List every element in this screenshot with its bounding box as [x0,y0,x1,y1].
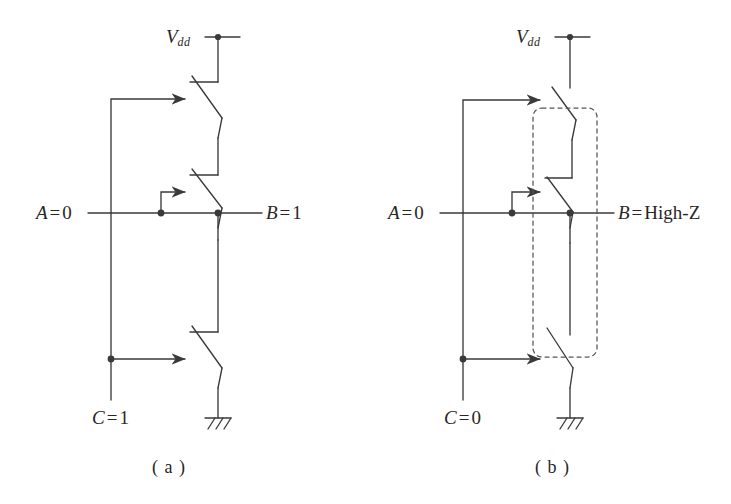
node-dot-b [215,210,222,217]
panel-a-output-b-label: B=1 [266,203,302,222]
panel-b-input-a-wire [440,210,570,217]
page-footer-sliver [0,497,731,504]
panel-a-input-c-wire [108,213,115,400]
panel-b-ground-icon [557,418,583,429]
panel-a-gate-wire-1 [111,99,185,213]
panel-b-vdd-label: Vdd [516,27,540,48]
panel-b-vdd-rail [555,34,590,88]
panel-a-input-c-label: C=1 [92,408,129,427]
panel-a-mid-link [190,240,218,332]
panel-a-vdd-rail [205,34,240,82]
panel-b-input-c-label: C=0 [444,408,481,427]
panel-b-gate-wire-1 [463,100,540,213]
panel-b-caption: ( b ) [535,457,570,478]
panel-b-switch-3 [547,243,573,418]
panel-b-input-c-wire [460,213,467,400]
high-impedance-highlight-box [533,108,597,357]
panel-a-circuit [88,34,262,429]
panel-b-output-b-wire [567,210,614,217]
panel-a-vdd-label: Vdd [166,27,190,48]
panel-a-switch-2 [190,169,222,240]
node-dot-b [567,210,574,217]
panel-a-input-a-label: A=0 [36,203,72,222]
panel-b-circuit [440,34,614,429]
panel-b-switch-1 [545,87,576,178]
panel-a-switch-3 [192,326,222,418]
panel-a-ground-icon [205,418,231,429]
panel-b-output-b-label: B=High-Z [618,203,700,222]
circuit-drawing [0,0,731,504]
panel-b-input-a-label: A=0 [388,203,424,222]
panel-b-gate-wire-2 [512,192,540,213]
node-dot-a-branch [158,210,165,217]
panel-a-gate-wire-2 [161,192,185,213]
panel-a-caption: ( a ) [152,457,186,478]
panel-a-switch-1 [190,76,222,175]
figure-canvas: Vdd A=0 B=1 C=1 ( a ) Vdd A=0 B=High-Z C… [0,0,731,504]
node-dot-a-branch [509,210,516,217]
panel-a-input-a-wire [88,210,218,217]
